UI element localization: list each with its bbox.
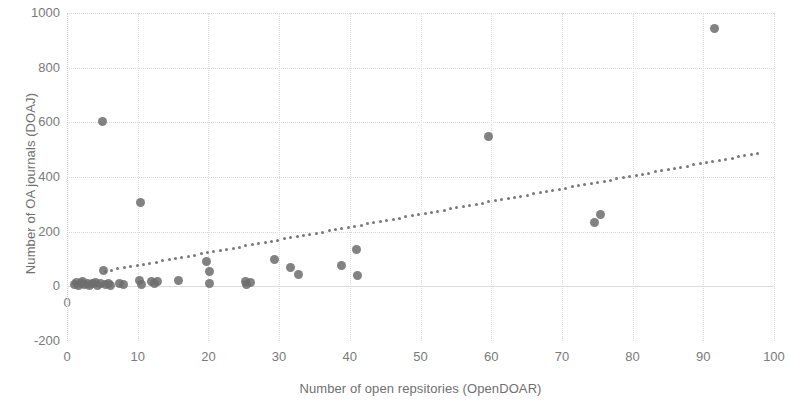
trendline-dot	[551, 189, 554, 192]
y-tick-label: 400	[14, 170, 60, 183]
data-point	[153, 277, 162, 286]
trendline-dot	[417, 213, 420, 216]
trendline-dot	[424, 212, 427, 215]
plot-area	[67, 13, 774, 341]
trendline-dot	[347, 226, 350, 229]
y-tick: 0	[8, 279, 60, 292]
x-tick-label: 80	[625, 349, 639, 364]
trendline-dot	[737, 155, 740, 158]
trendline-dot	[660, 169, 663, 172]
x-tick-label: 40	[343, 349, 357, 364]
trendline-dot	[673, 167, 676, 170]
y-tick-label: 1000	[14, 6, 60, 19]
x-tick: 80	[613, 347, 653, 365]
trendline-dot	[328, 229, 331, 232]
trendline-dot	[539, 191, 542, 194]
trendline-dot	[360, 224, 363, 227]
data-point	[294, 270, 303, 279]
x-tick-label: 0	[63, 349, 70, 364]
trendline-dot	[455, 206, 458, 209]
trendline-dot	[110, 269, 113, 272]
x-tick: 90	[683, 347, 723, 365]
trendline-dot	[193, 254, 196, 257]
data-point	[98, 117, 107, 126]
data-point	[99, 266, 108, 275]
y-tick-label: 600	[14, 115, 60, 128]
trendline-dot	[526, 194, 529, 197]
trendline-dot	[168, 258, 171, 261]
trendline-dot	[603, 180, 606, 183]
trendline-dot	[756, 152, 759, 155]
trendline-dot	[200, 252, 203, 255]
trendline-dot	[711, 160, 714, 163]
y-tick: 1000	[8, 6, 60, 19]
x-tick: 100	[754, 347, 789, 365]
y-axis-title: Number of OA journals (DOAJ)	[23, 54, 38, 314]
trendline-dot	[430, 211, 433, 214]
x-axis-title: Number of open repsitories (OpenDOAR)	[67, 381, 774, 396]
trendline-dot	[590, 182, 593, 185]
trendline-dot	[609, 179, 612, 182]
y-tick-label: 800	[14, 61, 60, 74]
x-tick: 70	[542, 347, 582, 365]
trendline-dot	[487, 200, 490, 203]
trendline-dot	[622, 176, 625, 179]
y-tick-label: 0	[14, 279, 60, 292]
trendline-dot	[628, 175, 631, 178]
trendline-dot	[507, 197, 510, 200]
trendline-dot	[679, 166, 682, 169]
x-tick-label: 60	[484, 349, 498, 364]
trendline-dot	[219, 249, 222, 252]
trendline-dot	[385, 219, 388, 222]
trendline-dot	[116, 267, 119, 270]
trendline-dot	[692, 163, 695, 166]
x-tick: 30	[259, 347, 299, 365]
trendline-dot	[315, 232, 318, 235]
data-point	[270, 255, 279, 264]
trendline-dot	[238, 246, 241, 249]
trendline-dot	[340, 227, 343, 230]
trendline-dot	[449, 207, 452, 210]
data-point	[337, 261, 346, 270]
trendline-dot	[225, 248, 228, 251]
trendline-dot	[558, 188, 561, 191]
trendline-dot	[436, 210, 439, 213]
trendline-dot	[142, 263, 145, 266]
trendline-dot	[270, 240, 273, 243]
trendline-dot	[545, 190, 548, 193]
x-tick: 0	[47, 347, 87, 365]
trendline-dot	[641, 173, 644, 176]
trendline-dot	[494, 199, 497, 202]
trendline-dot	[123, 266, 126, 269]
trendline-dot	[468, 204, 471, 207]
trendline-dot	[283, 237, 286, 240]
x-tick: 10	[118, 347, 158, 365]
trendline-dot	[443, 209, 446, 212]
trendline-dot	[206, 251, 209, 254]
trendline-dot	[647, 172, 650, 175]
trendline-dot	[596, 181, 599, 184]
trendline-dot	[180, 256, 183, 259]
trendline-dot	[289, 236, 292, 239]
trendline-dot	[264, 241, 267, 244]
x-tick-label: 100	[763, 349, 785, 364]
trendline-dot	[724, 158, 727, 161]
trendline-dot	[571, 185, 574, 188]
trendline-dot	[372, 221, 375, 224]
trendline-dot	[232, 247, 235, 250]
x-tick-label: 30	[272, 349, 286, 364]
trendline-dot	[353, 225, 356, 228]
x-tick-label: 90	[696, 349, 710, 364]
trendline-dot	[583, 183, 586, 186]
y-tick: 800	[8, 61, 60, 74]
trendline-dot	[513, 196, 516, 199]
trendline-dot	[276, 239, 279, 242]
x-tick-label: 10	[130, 349, 144, 364]
y-tick: 200	[8, 225, 60, 238]
data-point	[286, 263, 295, 272]
gridline-vertical	[774, 13, 775, 341]
data-point	[205, 267, 214, 276]
trendline-dot	[392, 218, 395, 221]
trendline-dot	[743, 154, 746, 157]
trendline-dot	[366, 222, 369, 225]
